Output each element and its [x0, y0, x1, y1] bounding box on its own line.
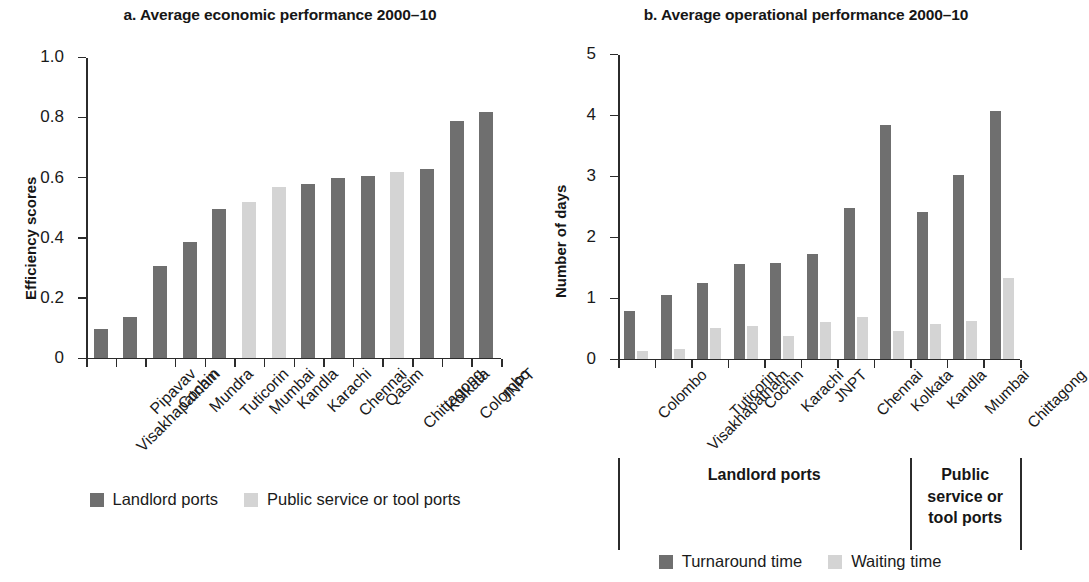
- bar: [893, 331, 904, 359]
- y-axis-tick-label: 0: [55, 348, 64, 368]
- panel-b-y-axis-label: Number of days: [552, 185, 569, 298]
- x-axis-tick: [116, 359, 118, 367]
- bar: [953, 175, 964, 359]
- x-axis-tick: [874, 360, 876, 368]
- bar: [272, 187, 286, 358]
- x-axis-tick: [145, 359, 147, 367]
- bar-slot: [947, 55, 984, 359]
- bar: [783, 336, 794, 358]
- y-axis-tick: 5: [610, 54, 618, 56]
- panel-a-y-axis-label: Efficiency scores: [22, 177, 39, 300]
- x-axis-tick: [175, 359, 177, 367]
- bar-slot: [234, 58, 264, 358]
- panel-a-economic-performance: a. Average economic performance 2000–10 …: [0, 0, 530, 582]
- bar-slot: [983, 55, 1020, 359]
- y-axis-tick-label: 0: [587, 349, 596, 369]
- bar-slot: [764, 55, 801, 359]
- bar: [990, 111, 1001, 359]
- x-axis-tick: [1020, 360, 1022, 368]
- x-axis-tick: [323, 359, 325, 367]
- bar-slot: [205, 58, 235, 358]
- y-axis-tick: 3: [610, 176, 618, 178]
- legend-label-turnaround-time: Turnaround time: [682, 552, 802, 571]
- y-axis-tick-label: 4: [587, 105, 596, 125]
- panel-b-plot-area: ColomboVisakhapatnamTuticorinCochinKarac…: [618, 55, 1020, 360]
- x-axis-tick: [910, 360, 912, 368]
- bar-slot: [86, 58, 116, 358]
- panel-b-group-brackets: Landlord portsPublicservice ortool ports: [618, 458, 1020, 550]
- bar: [123, 317, 137, 357]
- bar-slot: [175, 58, 205, 358]
- bar: [301, 184, 315, 358]
- group-label: Publicservice ortool ports: [910, 464, 1020, 529]
- panel-a-title: a. Average economic performance 2000–10: [0, 6, 530, 24]
- x-axis-tick: [947, 360, 949, 368]
- legend-swatch-dark-icon: [90, 493, 104, 507]
- x-axis-tick: [412, 359, 414, 367]
- bar: [637, 351, 648, 358]
- bar: [857, 317, 868, 358]
- bar: [624, 311, 635, 358]
- bar: [450, 121, 464, 358]
- bar: [930, 324, 941, 359]
- x-axis-tick: [501, 359, 503, 367]
- legend-label-waiting-time: Waiting time: [851, 552, 941, 571]
- x-axis-category-label: Mumbai: [981, 366, 1033, 418]
- x-axis-tick: [294, 359, 296, 367]
- y-axis-tick: 1: [610, 298, 618, 300]
- y-axis-tick: 0.6: [78, 177, 86, 179]
- bar: [390, 172, 404, 358]
- y-axis-tick-label: 1.0: [40, 47, 64, 67]
- legend-swatch-dark-icon: [659, 555, 673, 569]
- x-axis-tick: [205, 359, 207, 367]
- bar-slot: [442, 58, 472, 358]
- legend-swatch-light-icon: [828, 555, 842, 569]
- legend-item-public-service-tool-ports: Public service or tool ports: [244, 490, 461, 509]
- bar: [820, 322, 831, 358]
- bar-slot: [323, 58, 353, 358]
- x-axis-tick: [983, 360, 985, 368]
- bar-slot: [471, 58, 501, 358]
- bar-slot: [293, 58, 323, 358]
- bar: [697, 283, 708, 359]
- x-axis-tick: [764, 360, 766, 368]
- y-axis-tick-label: 0.4: [40, 228, 64, 248]
- panel-a-x-axis-labels: VisakhapatnamPipavavCochinMundraTuticori…: [86, 359, 501, 479]
- bar: [661, 295, 672, 359]
- y-axis-tick-label: 0.8: [40, 107, 64, 127]
- panel-b-legend: Turnaround time Waiting time: [570, 552, 1030, 571]
- panel-b-title: b. Average operational performance 2000–…: [530, 6, 1042, 24]
- bar: [770, 263, 781, 359]
- y-axis-tick-label: 5: [587, 44, 596, 64]
- y-axis-tick: 0: [610, 359, 618, 361]
- bar: [420, 169, 434, 358]
- y-axis-tick-label: 0.2: [40, 288, 64, 308]
- x-axis-tick: [86, 359, 88, 367]
- x-axis-tick: [471, 359, 473, 367]
- x-axis-category-label: Colombo: [654, 366, 711, 423]
- group-separator: [1020, 458, 1022, 550]
- bar: [966, 321, 977, 358]
- x-axis-tick: [837, 360, 839, 368]
- y-axis-tick: 1.0: [78, 57, 86, 59]
- y-axis-tick: 4: [610, 115, 618, 117]
- panel-a-bar-group: [86, 58, 501, 358]
- bar-slot: [837, 55, 874, 359]
- y-axis-tick-label: 2: [587, 227, 596, 247]
- bar: [153, 266, 167, 357]
- bar: [747, 326, 758, 358]
- x-axis-tick: [382, 359, 384, 367]
- bar-slot: [353, 58, 383, 358]
- bar: [94, 329, 108, 357]
- bar-slot: [801, 55, 838, 359]
- panel-b-operational-performance: b. Average operational performance 2000–…: [530, 0, 1042, 582]
- x-axis-tick: [728, 360, 730, 368]
- bar-slot: [618, 55, 655, 359]
- bar-slot: [728, 55, 765, 359]
- bar-slot: [116, 58, 146, 358]
- bar-slot: [145, 58, 175, 358]
- y-axis-tick: 0: [78, 358, 86, 360]
- legend-item-turnaround-time: Turnaround time: [659, 552, 802, 571]
- bar: [844, 208, 855, 359]
